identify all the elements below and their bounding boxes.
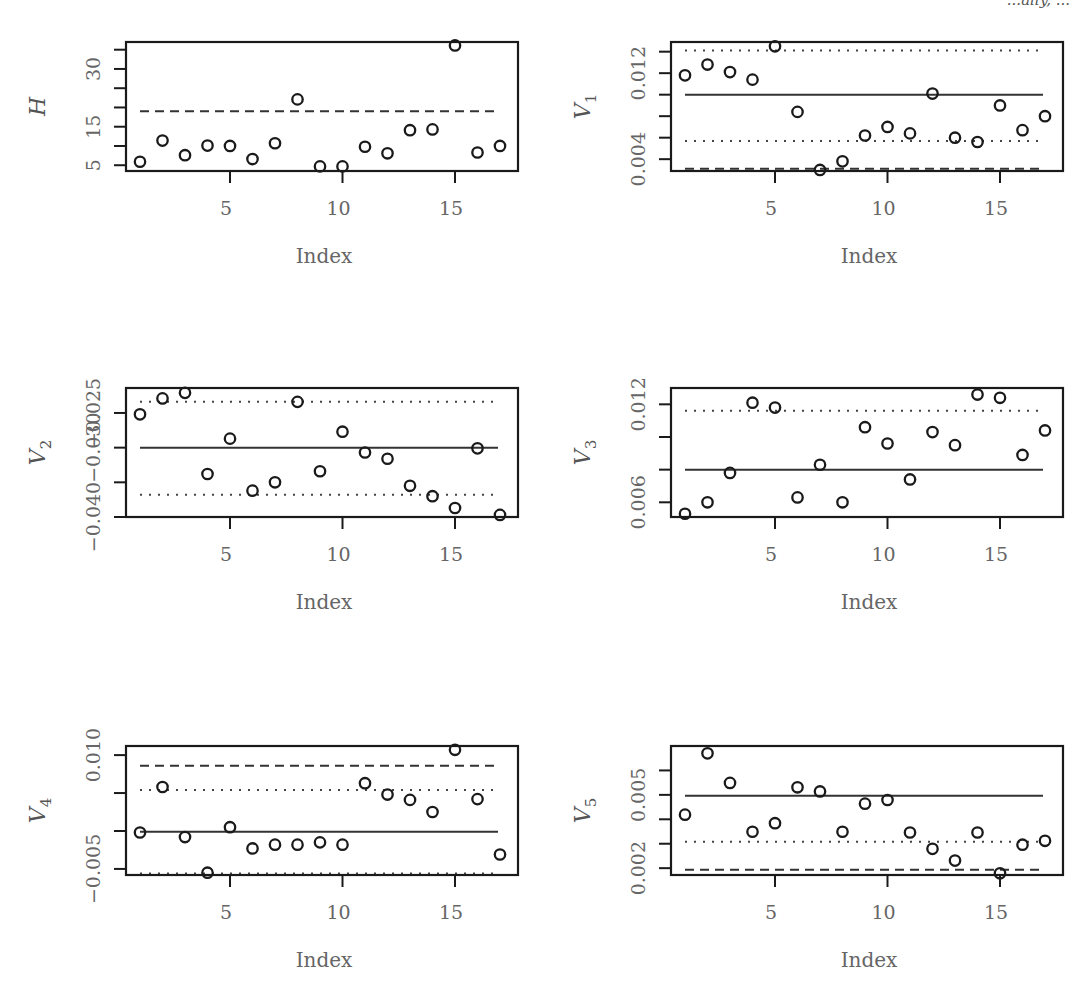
y-tick-label: 15 (82, 115, 104, 139)
y-axis-title: V1 (570, 94, 600, 119)
x-tick-label: 15 (984, 543, 1008, 565)
y-tick-label: 5 (82, 159, 104, 171)
data-point (680, 70, 690, 80)
data-point (225, 141, 235, 151)
data-point (680, 809, 690, 819)
data-point (725, 778, 735, 788)
data-point (747, 397, 757, 407)
data-point (1017, 840, 1027, 850)
data-point (247, 843, 257, 853)
plot-frame (671, 746, 1063, 875)
x-tick-label: 5 (220, 901, 232, 923)
y-axis-title: V2 (25, 440, 55, 465)
data-point (702, 748, 712, 758)
scatter-plot: 51015−0.040−0.030−0.025IndexV2 (0, 346, 545, 676)
y-axis-title: V4 (25, 798, 55, 823)
data-point (725, 67, 735, 77)
x-tick-label: 15 (984, 197, 1008, 219)
data-point (905, 474, 915, 484)
scatter-plot: 510150.0060.012IndexV3 (545, 346, 1090, 676)
data-point (405, 481, 415, 491)
data-point (495, 849, 505, 859)
y-tick-label: 0.010 (82, 728, 104, 782)
panel-V4: 51015−0.0050.010IndexV4 (0, 704, 545, 992)
x-tick-label: 5 (220, 543, 232, 565)
data-point (882, 438, 892, 448)
x-axis-title: Index (296, 244, 353, 268)
plot-frame (126, 42, 518, 171)
y-tick-label: 0.005 (627, 768, 649, 822)
data-point (270, 839, 280, 849)
data-point (815, 460, 825, 470)
x-tick-label: 5 (765, 901, 777, 923)
x-axis-title: Index (296, 948, 353, 972)
data-point (702, 497, 712, 507)
data-point (860, 798, 870, 808)
x-tick-label: 5 (765, 543, 777, 565)
data-point (1040, 836, 1050, 846)
data-point (180, 832, 190, 842)
data-point (995, 393, 1005, 403)
x-tick-label: 10 (326, 543, 350, 565)
x-tick-label: 15 (439, 543, 463, 565)
data-point (472, 794, 482, 804)
data-point (1040, 111, 1050, 121)
data-point (247, 154, 257, 164)
x-axis-title: Index (841, 948, 898, 972)
data-point (792, 492, 802, 502)
data-point (427, 807, 437, 817)
data-point (315, 837, 325, 847)
data-point (1017, 125, 1027, 135)
data-point (972, 827, 982, 837)
data-point (837, 156, 847, 166)
plot-frame (671, 388, 1063, 517)
x-tick-label: 15 (439, 197, 463, 219)
data-point (860, 422, 870, 432)
x-axis-title: Index (841, 590, 898, 614)
data-point (292, 839, 302, 849)
y-tick-label: 0.002 (627, 841, 649, 895)
data-point (157, 135, 167, 145)
data-point (427, 491, 437, 501)
x-tick-label: 15 (984, 901, 1008, 923)
y-tick-label: 0.012 (627, 46, 649, 100)
data-point (315, 466, 325, 476)
x-tick-label: 10 (871, 543, 895, 565)
data-point (382, 789, 392, 799)
data-point (747, 74, 757, 84)
data-point (405, 125, 415, 135)
data-point (157, 393, 167, 403)
data-point (427, 124, 437, 134)
scatter-plot: 510150.0020.005IndexV5 (545, 704, 1090, 992)
y-tick-label: 0.012 (627, 377, 649, 431)
data-point (927, 844, 937, 854)
data-point (905, 128, 915, 138)
x-axis-title: Index (296, 590, 353, 614)
data-point (950, 855, 960, 865)
x-tick-label: 10 (871, 901, 895, 923)
data-point (135, 157, 145, 167)
data-point (270, 138, 280, 148)
data-point (247, 485, 257, 495)
data-point (180, 150, 190, 160)
data-point (905, 827, 915, 837)
data-point (950, 440, 960, 450)
panel-V3: 510150.0060.012IndexV3 (545, 346, 1090, 676)
y-axis-title: H (25, 96, 50, 117)
x-tick-label: 5 (765, 197, 777, 219)
data-point (927, 427, 937, 437)
scatter-plot: 5101551530IndexH (0, 0, 545, 330)
panel-V2: 51015−0.040−0.030−0.025IndexV2 (0, 346, 545, 676)
y-tick-label: −0.040 (82, 482, 104, 552)
y-tick-label: −0.025 (82, 378, 104, 448)
scatter-plot: 51015−0.0050.010IndexV4 (0, 704, 545, 992)
panel-V1: 510150.0040.012IndexV1 (545, 0, 1090, 330)
data-point (450, 503, 460, 513)
panel-V5: 510150.0020.005IndexV5 (545, 704, 1090, 992)
data-point (1017, 450, 1027, 460)
y-tick-label: 0.004 (627, 132, 649, 186)
data-point (135, 409, 145, 419)
x-tick-label: 10 (326, 197, 350, 219)
data-point (292, 94, 302, 104)
x-tick-label: 10 (871, 197, 895, 219)
